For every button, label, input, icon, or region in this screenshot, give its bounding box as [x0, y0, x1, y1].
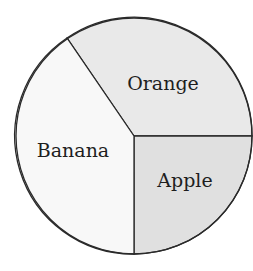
pie-chart: Orange Banana Apple [0, 0, 253, 271]
label-orange: Orange [127, 72, 199, 94]
label-apple: Apple [156, 169, 212, 191]
label-banana: Banana [37, 139, 109, 161]
slice-apple [134, 136, 252, 254]
